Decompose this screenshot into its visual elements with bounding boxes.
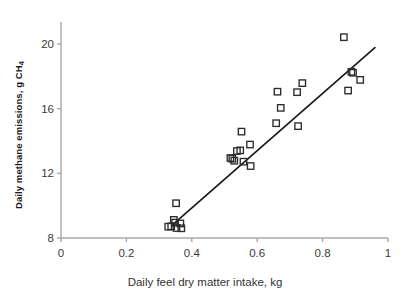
- x-tick-label: 0.6: [249, 247, 265, 259]
- x-tick-label: 0.8: [315, 247, 331, 259]
- data-point: [294, 89, 300, 95]
- data-point: [247, 141, 253, 147]
- data-point: [295, 123, 301, 129]
- y-axis-title: Daily methane emissions, g CH4: [13, 61, 24, 209]
- y-tick-label: 16: [30, 103, 54, 115]
- x-axis-title: Daily feel dry matter intake, kg: [0, 276, 410, 288]
- y-tick-label: 12: [30, 167, 54, 179]
- x-tick-label: 0: [58, 247, 64, 259]
- x-tick-label: 1: [385, 247, 391, 259]
- x-tick-label: 0.2: [118, 247, 134, 259]
- data-point: [247, 163, 253, 169]
- data-point: [273, 120, 279, 126]
- y-axis-title-subscript: 4: [17, 61, 26, 65]
- data-point: [357, 77, 363, 83]
- data-point: [173, 200, 179, 206]
- data-point: [238, 128, 244, 134]
- chart-figure: 8121620 00.20.40.60.81 Daily methane emi…: [0, 0, 410, 303]
- y-tick-label: 20: [30, 38, 54, 50]
- axis-ticks: [57, 44, 388, 242]
- y-axis-title-text: Daily methane emissions, g CH: [13, 65, 24, 209]
- x-tick-label: 0.4: [184, 247, 200, 259]
- data-point: [341, 34, 347, 40]
- data-point: [299, 80, 305, 86]
- axes: [61, 22, 388, 238]
- regression-line: [172, 48, 375, 226]
- data-point: [278, 105, 284, 111]
- data-points: [165, 34, 363, 231]
- data-point: [345, 87, 351, 93]
- data-point: [274, 88, 280, 94]
- y-tick-label: 8: [30, 232, 54, 244]
